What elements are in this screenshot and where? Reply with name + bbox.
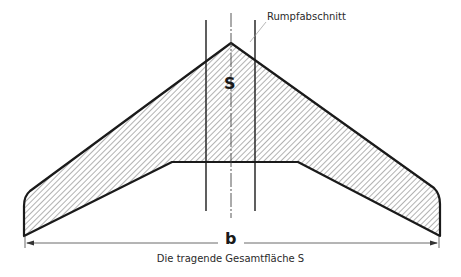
span-arrow-right: [430, 241, 438, 246]
area-symbol-label: S: [224, 74, 236, 93]
wing-area: [24, 43, 440, 236]
label-leader: [250, 22, 266, 42]
span-symbol-label: b: [225, 229, 236, 248]
span-arrow-left: [26, 241, 34, 246]
figure-caption: Die tragende Gesamtfläche S: [0, 253, 461, 264]
fuselage-section-label: Rumpfabschnitt: [267, 11, 346, 22]
